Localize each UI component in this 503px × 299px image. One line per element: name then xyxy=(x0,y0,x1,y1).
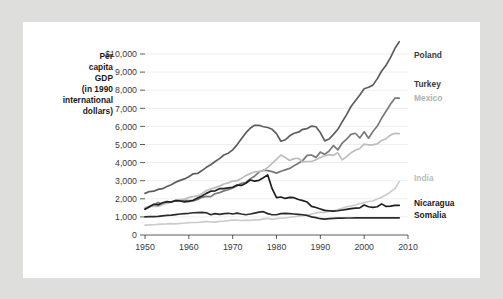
axis-title-group: PercapitaGDP(in 1990internationaldollars… xyxy=(63,51,114,116)
x-tick-label: 1960 xyxy=(179,242,199,252)
y-axis-title-line: international xyxy=(63,95,113,105)
y-tick-label: 1,000 xyxy=(115,212,137,222)
data-series-group xyxy=(145,42,399,225)
y-tick-label: 4,000 xyxy=(115,158,137,168)
x-tick-label: 1990 xyxy=(311,242,331,252)
y-tick-label: 7,000 xyxy=(115,104,137,114)
y-tick-label: 0 xyxy=(132,230,137,240)
y-tick-label: 5,000 xyxy=(115,140,137,150)
gridlines-group xyxy=(145,54,408,217)
y-tick-label: 9,000 xyxy=(115,67,137,77)
y-axis-title-line: capita xyxy=(89,62,114,72)
series-label-turkey: Turkey xyxy=(414,79,441,89)
series-label-mexico: Mexico xyxy=(414,93,442,103)
y-axis-title-line: GDP xyxy=(95,73,114,83)
series-labels-group: PolandTurkeyMexicoIndiaNicaraguaSomalia xyxy=(414,50,455,220)
series-label-somalia: Somalia xyxy=(414,210,446,220)
x-tick-label: 1970 xyxy=(223,242,243,252)
line-chart: 01,0002,0003,0004,0005,0006,0007,0008,00… xyxy=(23,22,480,278)
y-tick-label: 8,000 xyxy=(115,85,137,95)
series-label-india: India xyxy=(414,173,434,183)
y-axis-title-line: Per xyxy=(99,51,113,61)
y-tick-label: 6,000 xyxy=(115,122,137,132)
y-axis-title-line: (in 1990 xyxy=(82,84,114,94)
series-line-somalia xyxy=(145,212,399,219)
y-tick-label: 2,000 xyxy=(115,194,137,204)
series-line-nicaragua xyxy=(145,175,399,211)
x-tick-label: 2000 xyxy=(354,242,374,252)
x-tick-label: 1980 xyxy=(267,242,287,252)
axis-group xyxy=(140,54,408,239)
x-tick-labels-group: 1950196019701980199020002010 xyxy=(135,242,418,252)
y-tick-label: 3,000 xyxy=(115,176,137,186)
chart-svg: 01,0002,0003,0004,0005,0006,0007,0008,00… xyxy=(23,22,480,278)
series-line-turkey xyxy=(145,98,399,209)
series-line-poland xyxy=(145,42,399,194)
x-tick-label: 1950 xyxy=(135,242,155,252)
series-label-nicaragua: Nicaragua xyxy=(414,198,455,208)
x-tick-label: 2010 xyxy=(398,242,418,252)
y-axis-title-line: dollars) xyxy=(83,106,113,116)
figure-card: 01,0002,0003,0004,0005,0006,0007,0008,00… xyxy=(23,22,480,278)
series-label-poland: Poland xyxy=(414,50,442,60)
